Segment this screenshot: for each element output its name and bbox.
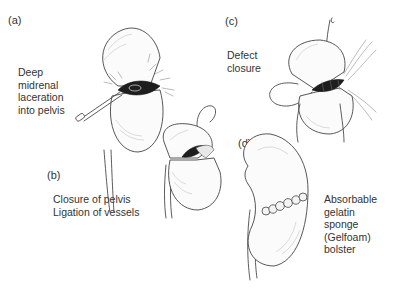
kidney-b-illustration xyxy=(163,106,221,218)
kidney-a-illustration xyxy=(75,28,174,212)
kidney-d-illustration xyxy=(244,134,308,280)
kidney-c-illustration xyxy=(270,18,376,142)
surgical-illustration xyxy=(0,0,398,291)
